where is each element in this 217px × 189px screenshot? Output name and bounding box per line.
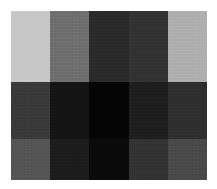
grayscale-patch-figure (0, 0, 217, 189)
patch-cell-r2-c5 (168, 82, 207, 139)
patch-cell-r1-c1 (11, 11, 50, 82)
patch-cell-r1-c3 (89, 11, 128, 82)
patch-cell-r1-c5 (168, 11, 207, 82)
patch-cell-r3-c5 (168, 139, 207, 180)
patch-cell-r3-c4 (129, 139, 168, 180)
patch-grid (11, 11, 207, 180)
patch-cell-r2-c1 (11, 82, 50, 139)
patch-cell-r2-c4 (129, 82, 168, 139)
patch-cell-r2-c3 (89, 82, 128, 139)
patch-cell-r2-c2 (50, 82, 89, 139)
patch-cell-r3-c3 (89, 139, 128, 180)
patch-cell-r1-c4 (129, 11, 168, 82)
patch-cell-r3-c1 (11, 139, 50, 180)
patch-cell-r1-c2 (50, 11, 89, 82)
patch-cell-r3-c2 (50, 139, 89, 180)
